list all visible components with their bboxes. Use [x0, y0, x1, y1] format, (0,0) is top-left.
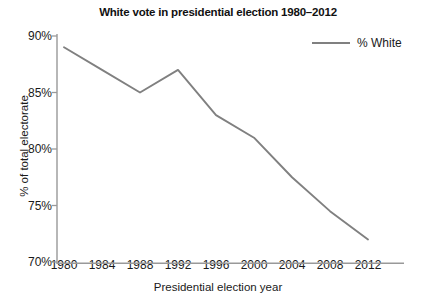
chart-container: White vote in presidential election 1980…: [0, 0, 436, 306]
y-axis-ticks: [52, 36, 57, 262]
data-series-line-percent-white: [64, 47, 368, 239]
plot-area: [0, 0, 436, 306]
